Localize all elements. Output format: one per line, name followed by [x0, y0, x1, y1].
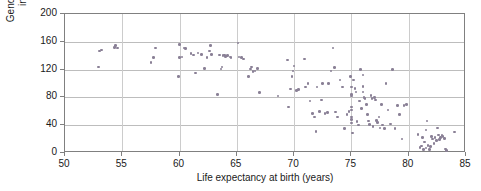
gridline-vertical: [237, 14, 238, 151]
data-point: [443, 137, 446, 140]
data-point: [423, 141, 426, 144]
x-axis-title: Life expectancy at birth (years): [64, 172, 466, 183]
data-point: [405, 103, 408, 106]
data-point: [194, 72, 197, 75]
data-point: [350, 118, 353, 121]
data-point: [453, 131, 456, 134]
data-point: [428, 148, 431, 151]
data-point: [221, 66, 224, 69]
x-tick-label: 85: [450, 159, 480, 169]
data-point: [315, 130, 318, 133]
data-point: [352, 79, 355, 82]
gridline-horizontal: [65, 125, 464, 126]
data-point: [330, 70, 333, 73]
data-point: [150, 61, 153, 64]
gridline-horizontal: [65, 42, 464, 43]
data-point: [420, 145, 423, 148]
data-point: [181, 56, 184, 59]
data-point: [116, 47, 119, 50]
data-point: [417, 133, 420, 136]
data-point: [250, 66, 253, 69]
data-point: [445, 149, 448, 152]
data-point: [380, 103, 383, 106]
data-point: [339, 79, 342, 82]
data-point: [247, 75, 250, 78]
data-point: [360, 107, 363, 110]
data-point: [370, 94, 373, 97]
data-point: [304, 86, 307, 89]
data-point: [230, 56, 233, 59]
data-point: [429, 145, 432, 148]
x-tick-label: 80: [393, 159, 423, 169]
gridline-vertical: [409, 14, 410, 151]
data-point: [383, 127, 386, 130]
data-point: [343, 127, 346, 130]
data-point: [208, 50, 211, 53]
data-point: [376, 121, 379, 124]
scatter-chart: Gender inequality index rank 04080120160…: [0, 0, 481, 191]
x-tick-mark: [293, 152, 294, 156]
plot-area: [64, 13, 465, 152]
data-point: [355, 91, 358, 94]
data-point: [378, 116, 381, 119]
data-point: [350, 109, 353, 112]
gridline-vertical: [351, 14, 352, 151]
x-tick-mark: [465, 152, 466, 156]
data-point: [321, 82, 324, 85]
data-point: [341, 86, 344, 89]
data-point: [209, 44, 212, 47]
data-point: [401, 138, 404, 141]
data-point: [385, 82, 388, 85]
data-point: [436, 127, 439, 130]
data-point: [350, 95, 353, 98]
data-point: [152, 56, 155, 59]
data-point: [435, 139, 438, 142]
data-point: [332, 47, 335, 50]
data-point: [394, 127, 397, 130]
x-tick-label: 55: [106, 159, 136, 169]
data-point: [100, 49, 103, 52]
data-point: [391, 68, 394, 71]
x-tick-label: 75: [335, 159, 365, 169]
data-point: [178, 43, 181, 46]
data-point: [326, 111, 329, 114]
data-point: [425, 147, 428, 150]
x-tick-mark: [236, 152, 237, 156]
x-tick-label: 70: [278, 159, 308, 169]
data-point: [367, 120, 370, 123]
data-point: [433, 142, 436, 145]
data-point: [184, 47, 187, 50]
x-tick-mark: [179, 152, 180, 156]
data-point: [333, 66, 336, 69]
data-point: [396, 104, 399, 107]
data-point: [425, 129, 428, 132]
data-point: [192, 54, 195, 57]
data-point: [426, 120, 429, 123]
data-point: [327, 82, 330, 85]
data-point: [334, 111, 337, 114]
data-point: [365, 103, 368, 106]
data-point: [242, 58, 245, 61]
x-tick-label: 65: [221, 159, 251, 169]
data-point: [346, 113, 349, 116]
gridline-vertical: [180, 14, 181, 151]
data-point: [316, 86, 319, 89]
data-point: [318, 110, 321, 113]
data-point: [200, 53, 203, 56]
data-point: [351, 132, 354, 135]
data-point: [256, 67, 259, 70]
data-point: [258, 91, 261, 94]
data-point: [286, 59, 289, 62]
data-point: [336, 116, 339, 119]
data-point: [303, 58, 306, 61]
data-point: [356, 120, 359, 123]
data-point: [387, 109, 390, 112]
x-tick-mark: [350, 152, 351, 156]
data-point: [349, 75, 352, 78]
x-tick-mark: [64, 152, 65, 156]
x-tick-mark: [121, 152, 122, 156]
data-point: [154, 47, 157, 50]
x-tick-mark: [408, 152, 409, 156]
data-point: [307, 82, 310, 85]
data-point: [320, 99, 323, 102]
